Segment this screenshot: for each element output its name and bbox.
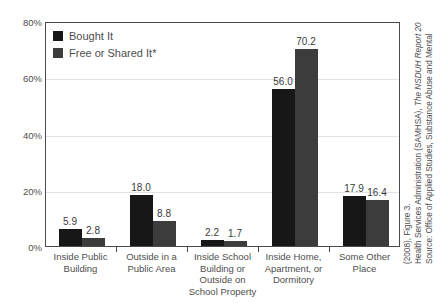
x-axis-tick-label: Inside Home,Apartment, orDormitory: [258, 251, 329, 286]
legend-label: Free or Shared It*: [69, 47, 156, 59]
y-axis-tick-label: 0%: [8, 242, 42, 253]
source-note-line-1: Source: Office of Applied Studies, Subst…: [425, 33, 434, 264]
y-axis-tick-label: 80%: [8, 17, 42, 28]
bar-value-label: 70.2: [296, 36, 315, 47]
bar: 2.8: [82, 238, 105, 246]
bar: 2.2: [201, 240, 224, 246]
x-axis-tick-label-line: Inside Public: [45, 251, 116, 263]
bar: 5.9: [59, 229, 82, 246]
x-axis-tick-label-line: Outside in a: [116, 251, 187, 263]
bar-value-label: 56.0: [273, 76, 292, 87]
bar-group: 17.916.4: [330, 23, 401, 246]
x-axis-tick-label-line: Public Area: [116, 263, 187, 275]
x-axis-tick-label-line: Apartment, or: [258, 263, 329, 275]
source-note: Source: Office of Applied Studies, Subst…: [404, 18, 448, 264]
x-axis-category-labels: Inside PublicBuildingOutside in aPublic …: [45, 251, 400, 301]
x-axis-tick-label-line: Dormitory: [258, 274, 329, 286]
x-axis-tick-label-line: Place: [329, 263, 400, 275]
legend-item: Bought It: [53, 28, 203, 43]
source-note-line-2: Health Services Administration (SAMHSA),…: [414, 22, 423, 264]
x-axis-tick-label-line: Building: [45, 263, 116, 275]
y-axis-tick-label: 60%: [8, 73, 42, 84]
chart-legend: Bought ItFree or Shared It*: [53, 28, 203, 62]
x-axis-tick-label-line: Inside School: [187, 251, 258, 263]
source-note-report-title: The NSDUH Report 20: [414, 22, 423, 106]
x-axis-tick-label: Inside SchoolBuilding orOutside onSchool…: [187, 251, 258, 297]
bar-chart-figure: 0%20%40%60%80% 5.92.818.08.82.21.756.070…: [0, 0, 448, 303]
bar: 18.0: [130, 195, 153, 246]
legend-item: Free or Shared It*: [53, 45, 203, 60]
bar-value-label: 18.0: [131, 182, 150, 193]
bar-value-label: 16.4: [367, 187, 386, 198]
bar: 17.9: [343, 196, 366, 246]
bar-value-label: 17.9: [344, 183, 363, 194]
bar: 16.4: [366, 200, 389, 246]
y-axis: 0%20%40%60%80%: [4, 22, 42, 247]
source-note-line-3: (2008), Figure 3.: [403, 203, 412, 264]
bar-group: 56.070.2: [259, 23, 330, 246]
legend-color-swatch: [53, 48, 63, 58]
x-axis-tick-label: Some OtherPlace: [329, 251, 400, 274]
bar: 1.7: [224, 241, 247, 246]
bar: 70.2: [295, 49, 318, 246]
bar-value-label: 1.7: [228, 228, 242, 239]
x-axis-tick-label-line: School Property: [187, 286, 258, 298]
source-note-line-2-plain: Health Services Administration (SAMHSA),: [414, 106, 423, 264]
legend-label: Bought It: [69, 30, 113, 42]
bar: 8.8: [153, 221, 176, 246]
bar-value-label: 5.9: [63, 216, 77, 227]
y-axis-tick-label: 40%: [8, 129, 42, 140]
y-axis-tick-label: 20%: [8, 185, 42, 196]
bar-value-label: 2.2: [205, 227, 219, 238]
x-axis-tick-label: Outside in aPublic Area: [116, 251, 187, 274]
bar-value-label: 8.8: [157, 208, 171, 219]
x-axis-tick-label-line: Some Other: [329, 251, 400, 263]
x-axis-tick-label-line: Outside on: [187, 274, 258, 286]
bar-value-label: 2.8: [86, 225, 100, 236]
x-axis-tick-label-line: Inside Home,: [258, 251, 329, 263]
bar: 56.0: [272, 89, 295, 247]
legend-color-swatch: [53, 31, 63, 41]
x-axis-tick-label: Inside PublicBuilding: [45, 251, 116, 274]
x-axis-tick-label-line: Building or: [187, 263, 258, 275]
